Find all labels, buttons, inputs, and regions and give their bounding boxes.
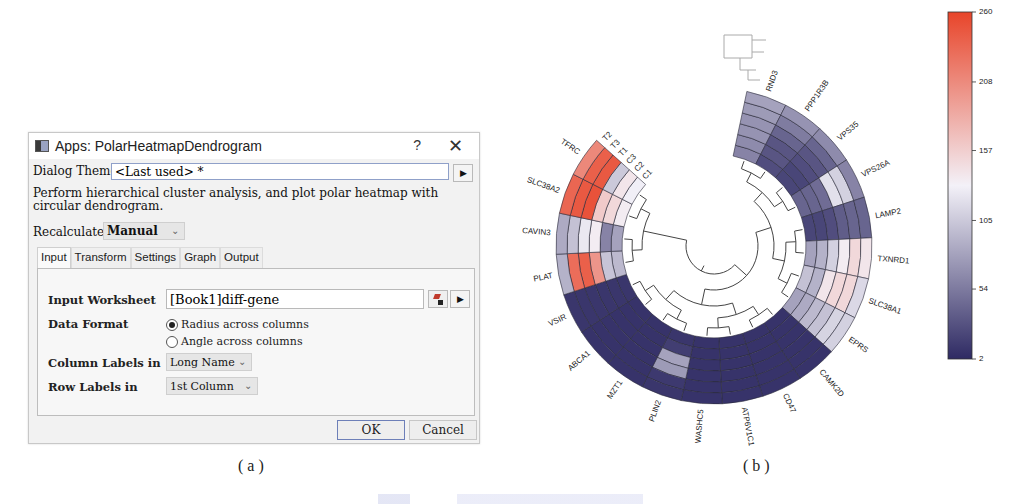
gene-label: LAMP2 bbox=[874, 206, 902, 220]
colorbar-tick-label: 157 bbox=[979, 146, 993, 155]
colorbar-tick-label: 105 bbox=[979, 216, 993, 225]
heatmap-cell bbox=[690, 347, 720, 360]
colorbar-gradient bbox=[948, 12, 972, 359]
colorbar-tick-label: 2 bbox=[979, 354, 984, 363]
colorbar-tick-label: 208 bbox=[979, 77, 993, 86]
caption-b: ( b ) bbox=[743, 457, 770, 475]
colorbar-tick-label: 260 bbox=[979, 7, 993, 16]
gene-label: VSIR bbox=[547, 312, 568, 328]
heatmap-cell bbox=[815, 240, 828, 270]
dendrogram-top-branches bbox=[724, 35, 766, 80]
gene-label: MZT1 bbox=[605, 378, 625, 401]
caption-a: ( a ) bbox=[238, 457, 264, 475]
gene-label: PPP1R3B bbox=[803, 78, 831, 113]
gene-label: WASHC5 bbox=[694, 409, 706, 444]
heatmap-cell bbox=[693, 336, 720, 349]
dendrogram-branches bbox=[624, 161, 803, 336]
gene-label: EPRS bbox=[847, 335, 870, 355]
gene-label: SLC38A2 bbox=[526, 175, 562, 195]
heatmap-cell bbox=[804, 241, 817, 268]
gene-label: TXNRD1 bbox=[877, 254, 910, 266]
gene-label: PLIN2 bbox=[647, 398, 663, 422]
gene-label: PLAT bbox=[533, 271, 554, 283]
gene-label: TFRC bbox=[559, 137, 582, 157]
colorbar-tick-label: 54 bbox=[979, 284, 988, 293]
heatmap-cell bbox=[600, 222, 613, 252]
gene-label: CAMK2D bbox=[817, 368, 846, 399]
gene-label: VPS35 bbox=[836, 119, 861, 142]
heatmap-cell bbox=[611, 225, 624, 252]
gene-label: SLC38A1 bbox=[867, 296, 903, 316]
gene-label: ABCA1 bbox=[566, 348, 592, 372]
gene-label: ATP6V1C1 bbox=[740, 406, 756, 447]
gene-label: CD47 bbox=[781, 392, 798, 415]
figure-caption-faded bbox=[378, 494, 643, 504]
gene-label: CAVIN3 bbox=[522, 226, 551, 237]
gene-label: VPS26A bbox=[860, 158, 892, 179]
colorbar-legend: 260208157105542 bbox=[948, 7, 993, 363]
gene-label: RND3 bbox=[764, 69, 780, 93]
